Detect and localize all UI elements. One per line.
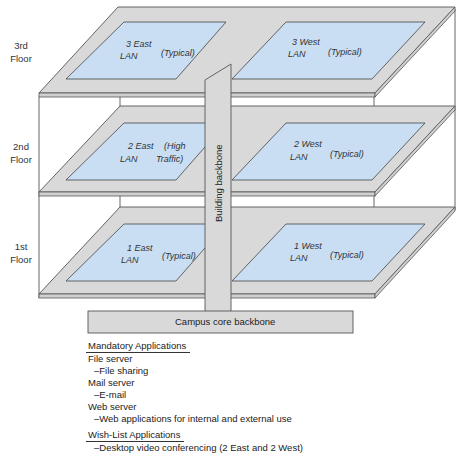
building-backbone-label: Building backbone	[213, 144, 224, 222]
svg-text:(Typical): (Typical)	[330, 250, 364, 260]
app-use: –E-mail	[88, 389, 303, 401]
mandatory-applications-header: Mandatory Applications	[86, 340, 190, 353]
wishlist-applications-header: Wish-List Applications	[86, 429, 184, 442]
svg-text:LAN: LAN	[288, 49, 306, 59]
svg-text:LAN: LAN	[290, 253, 308, 263]
svg-text:Traffic): Traffic)	[156, 154, 183, 164]
floor-label-2: 2nd Floor	[1, 140, 41, 166]
svg-text:LAN: LAN	[120, 51, 138, 61]
applications-list: Mandatory Applications File server –File…	[88, 340, 303, 454]
svg-text:3 East: 3 East	[126, 39, 152, 49]
app-server: Web server	[88, 401, 303, 413]
svg-text:LAN: LAN	[120, 154, 138, 164]
app-use: –Web applications for internal and exter…	[88, 413, 303, 425]
app-use: –File sharing	[88, 365, 303, 377]
floor-3-slab	[39, 7, 455, 97]
floor-1-slab	[39, 207, 455, 298]
svg-text:1 East: 1 East	[127, 243, 153, 253]
app-server: File server	[88, 353, 303, 365]
svg-text:LAN: LAN	[121, 255, 139, 265]
svg-text:1 West: 1 West	[294, 241, 322, 251]
building-backbone: Building backbone	[205, 64, 231, 312]
svg-text:(Typical): (Typical)	[328, 47, 362, 57]
svg-text:LAN: LAN	[290, 152, 308, 162]
wishlist-item: –Desktop video conferencing (2 East and …	[88, 442, 303, 454]
svg-text:2 West: 2 West	[293, 139, 322, 149]
campus-core-backbone-label: Campus core backbone	[175, 316, 275, 327]
svg-text:(High: (High	[164, 141, 186, 151]
floor-label-3: 3rd Floor	[1, 39, 41, 65]
svg-text:(Typical): (Typical)	[161, 48, 195, 58]
svg-text:3 West: 3 West	[292, 37, 320, 47]
svg-text:(Typical): (Typical)	[330, 149, 364, 159]
floor-2-slab	[39, 106, 455, 196]
app-server: Mail server	[88, 377, 303, 389]
svg-text:2 East: 2 East	[127, 141, 154, 151]
floor-label-1: 1st Floor	[1, 240, 41, 266]
campus-core-backbone: Campus core backbone	[88, 311, 353, 333]
svg-text:(Typical): (Typical)	[162, 251, 196, 261]
